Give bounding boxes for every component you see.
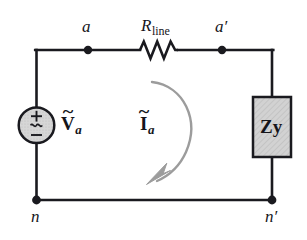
resistor-zigzag xyxy=(140,42,178,59)
impedance-label: Zy xyxy=(260,117,282,136)
resistor-label: Rline xyxy=(141,17,170,37)
impedance-label-sub: y xyxy=(273,116,283,137)
current-label-sub: a xyxy=(148,122,155,137)
current-label-tilde: ~ xyxy=(138,104,149,120)
source-label-accent-wrap: V ~ xyxy=(61,114,75,133)
current-label-accent-wrap: I ~ xyxy=(140,114,147,133)
resistor-symbol xyxy=(140,42,178,59)
voltage-source-symbol xyxy=(19,107,55,143)
circuit-diagram: a a′ n n′ Rline V ~ a I ~ a Zy xyxy=(0,0,307,240)
current-label: I ~ a xyxy=(140,114,154,136)
source-label-tilde: ~ xyxy=(63,104,74,120)
junction-dot-a xyxy=(84,46,92,54)
junction-dot-n xyxy=(32,196,41,205)
node-label-a-prime: a′ xyxy=(215,18,227,35)
impedance-label-main: Z xyxy=(260,116,273,137)
junction-dot-n-prime xyxy=(268,196,277,205)
resistor-label-main: R xyxy=(141,16,151,35)
resistor-label-sub: line xyxy=(152,24,170,38)
current-arc xyxy=(152,82,191,181)
source-label: V ~ a xyxy=(61,114,82,136)
node-label-a: a xyxy=(82,18,91,35)
node-label-n-prime: n′ xyxy=(265,208,277,225)
node-label-n: n xyxy=(31,208,40,225)
junction-dot-a-prime xyxy=(218,46,226,54)
source-label-sub: a xyxy=(75,122,82,137)
